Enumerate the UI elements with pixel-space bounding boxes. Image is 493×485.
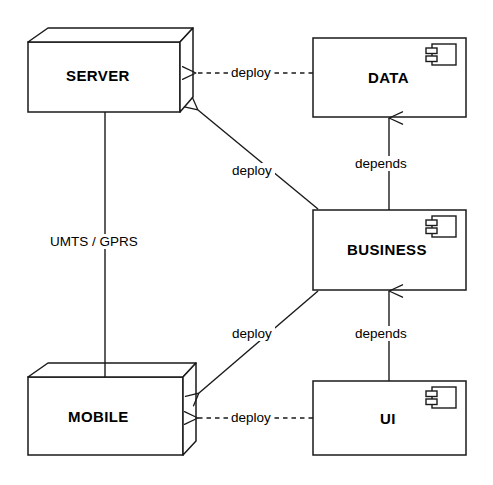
edge-business-to-mobile[interactable] (199, 291, 318, 393)
edge-label-business-to-server: deploy (229, 163, 275, 178)
node-mobile-label: MOBILE (68, 408, 129, 425)
edge-label-data-to-server: deploy (228, 65, 274, 80)
node-mobile-top-face (28, 363, 196, 377)
component-data-label: DATA (368, 69, 409, 86)
edge-label-business-to-mobile: deploy (229, 326, 275, 341)
component-business-label: BUSINESS (347, 241, 427, 258)
edge-label-business-to-data: depends (352, 156, 410, 171)
node-server-top-face (28, 28, 193, 42)
edge-business-to-server[interactable] (198, 110, 318, 209)
uml-deployment-diagram: SERVER MOBILE DATA BUSINESS UI deploy de… (0, 0, 493, 485)
edge-label-ui-to-business: depends (352, 326, 410, 341)
node-server-label: SERVER (66, 67, 130, 84)
node-mobile-side-face (183, 363, 196, 455)
node-server-side-face (180, 28, 193, 112)
component-ui-label: UI (380, 410, 396, 427)
edge-label-server-to-mobile: UMTS / GPRS (47, 234, 141, 249)
edge-label-ui-to-mobile: deploy (228, 410, 274, 425)
